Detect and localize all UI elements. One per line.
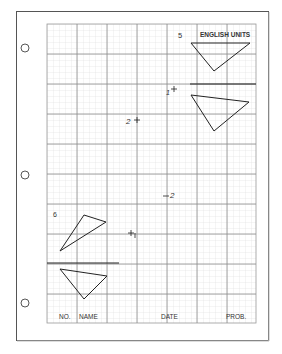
units-label: ENGLISH UNITS bbox=[200, 31, 251, 38]
point-label-1-upper: 1 bbox=[166, 89, 170, 96]
title-block-no: NO. bbox=[59, 313, 71, 320]
point-label-2-upper: 2 bbox=[125, 117, 131, 126]
problem-number-5: 5 bbox=[178, 31, 182, 40]
title-block-name: NAME bbox=[79, 313, 98, 320]
grid bbox=[47, 24, 256, 323]
drawing-sheet: ENGLISH UNITS 5 6 1 2 2 NO. NAME DATE PR… bbox=[0, 0, 282, 354]
title-block-prob: PROB. bbox=[226, 313, 246, 320]
point-label-2-lower: 2 bbox=[169, 191, 175, 200]
problem-number-6: 6 bbox=[53, 211, 57, 218]
title-block-date: DATE bbox=[161, 313, 179, 320]
